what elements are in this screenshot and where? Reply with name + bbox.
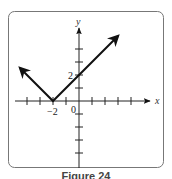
graph-frame xyxy=(9,12,164,168)
y-axis xyxy=(75,28,83,168)
y-axis-label: y xyxy=(75,16,81,27)
tick-label-origin: 0 xyxy=(71,104,76,115)
x-axis xyxy=(15,97,150,105)
tick-label-y2: 2 xyxy=(68,70,73,81)
tick-label-neg2: −2 xyxy=(47,106,58,117)
figure-caption: Figure 24 xyxy=(0,170,172,179)
graph-figure: x y −2 0 2 xyxy=(0,0,172,179)
function-curve xyxy=(20,36,118,101)
x-axis-label: x xyxy=(154,95,160,106)
